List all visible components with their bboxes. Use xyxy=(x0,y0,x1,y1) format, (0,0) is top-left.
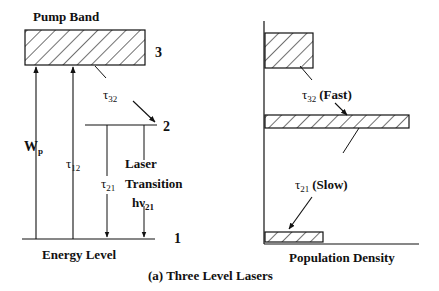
fast-decay-arrow xyxy=(335,103,347,115)
population-bar-level-2 xyxy=(265,115,409,128)
tau32-fast-label: τ32(Fast) xyxy=(302,87,352,104)
transition-label: Transition xyxy=(125,176,183,191)
figure-caption: (a) Three Level Lasers xyxy=(148,268,273,283)
pump-band-level-3 xyxy=(25,30,145,65)
energy-level-diagram: Pump Band 3 τ32 2 Wp τ12 τ21 Laser Trans… xyxy=(22,9,183,262)
laser-label: Laser xyxy=(125,156,157,171)
tau21-label: τ21 xyxy=(101,176,115,193)
population-bar-level-1 xyxy=(265,232,323,242)
energy-level-axis-label: Energy Level xyxy=(42,247,116,262)
tau32-label: τ32 xyxy=(103,87,117,104)
population-density-diagram: τ32(Fast) τ21(Slow) Population Density xyxy=(264,21,419,265)
population-axis-label: Population Density xyxy=(289,250,395,265)
tau32-decay-arrow xyxy=(133,101,155,122)
photon-energy-label: hν21 xyxy=(132,195,155,212)
pump-band-label: Pump Band xyxy=(33,9,100,24)
level-3-label: 3 xyxy=(155,45,162,60)
level-2-label: 2 xyxy=(163,119,170,134)
level-1-label: 1 xyxy=(174,231,181,246)
three-level-laser-figure: Pump Band 3 τ32 2 Wp τ12 τ21 Laser Trans… xyxy=(0,0,439,291)
pump-rate-label: Wp xyxy=(24,139,43,156)
slow-decay-line xyxy=(343,128,359,153)
slow-decay-arrow xyxy=(289,197,312,229)
tau32-decay-line xyxy=(95,66,106,78)
tau21-slow-label: τ21(Slow) xyxy=(295,177,348,194)
population-bar-level-3 xyxy=(265,33,313,68)
